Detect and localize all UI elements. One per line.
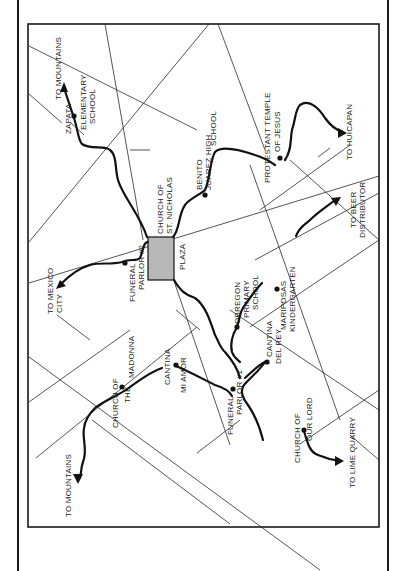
label-funeral-2: FUNERAL bbox=[128, 263, 137, 302]
label-church-st-nicholas-2: ST. NICHOLAS bbox=[165, 177, 174, 234]
label-parlor-2: PARLOR #2 bbox=[137, 244, 146, 290]
dot-benito-juarez bbox=[202, 192, 207, 197]
label-obregon: OBREGON bbox=[233, 282, 242, 324]
label-parlor-1: PARLOR #1 bbox=[235, 369, 244, 415]
label-church-our-lord-1: CHURCH OF bbox=[293, 413, 302, 463]
label-cantina-mi-amor-2: MI AMOR bbox=[179, 357, 188, 393]
label-church-st-nicholas-1: CHURCH OF bbox=[156, 184, 165, 234]
dot-funeral-parlor-2 bbox=[122, 260, 127, 265]
label-funeral-1: FUNERAL bbox=[226, 396, 235, 435]
label-of-jesus: OF JESUS bbox=[273, 111, 282, 152]
label-benito: BENITO bbox=[195, 159, 204, 190]
label-to-huicapan: TO HUICAPAN bbox=[345, 104, 354, 160]
label-church-madonna-1: CHURCH OF bbox=[111, 378, 120, 428]
label-distributor-text: DISTRIBUTOR bbox=[358, 182, 367, 238]
label-mariposas: MARIPOSAS bbox=[279, 281, 288, 330]
label-protestant-temple: PROTESTANT TEMPLE bbox=[263, 92, 272, 183]
label-kindergarten: KINDERGARTEN bbox=[288, 266, 297, 332]
label-school-obregon: SCHOOL bbox=[251, 275, 260, 310]
label-zapata: ZAPATA bbox=[64, 103, 73, 134]
dot-cantina-del-rey bbox=[264, 359, 269, 364]
label-church-our-lord-2: OUR LORD bbox=[305, 397, 314, 441]
dot-obregon bbox=[234, 324, 239, 329]
dot-protestant-temple bbox=[277, 155, 282, 160]
arrow-to-lime-quarry bbox=[335, 456, 344, 466]
label-school-zapata: SCHOOL bbox=[88, 89, 97, 124]
label-cantina-del-rey-1: CANTINA bbox=[265, 320, 274, 357]
label-cantina-del-rey-2: DEL REY bbox=[274, 328, 283, 364]
label-elementary: ELEMENTARY bbox=[79, 74, 88, 130]
dot-cantina-mi-amor bbox=[173, 362, 178, 367]
label-cantina-mi-amor-1: CANTINA bbox=[163, 348, 172, 385]
plaza-block bbox=[148, 237, 174, 280]
label-to-mountains-north: TO MOUNTAINS bbox=[54, 37, 63, 100]
label-to-beer: TO BEER bbox=[349, 192, 358, 228]
label-primary: PRIMARY bbox=[242, 280, 251, 318]
label-city: CITY bbox=[55, 294, 64, 313]
route-arrows bbox=[56, 82, 347, 484]
town-map: TO MOUNTAINS ZAPATA ELEMENTARY SCHOOL CH… bbox=[0, 0, 394, 571]
label-to-mountains-south: TO MOUNTAINS bbox=[64, 454, 73, 517]
label-plaza: PLAZA bbox=[178, 243, 187, 270]
label-to-lime-quarry: TO LIME QUARRY bbox=[348, 417, 357, 488]
label-church-madonna-2: THE bbox=[123, 386, 132, 403]
arrow-to-mountains-south bbox=[73, 474, 83, 484]
label-school-benito: SCHOOL bbox=[209, 111, 218, 146]
label-to-mexico: TO MEXICO bbox=[46, 267, 55, 314]
label-church-madonna-3: MADONNA bbox=[127, 335, 136, 378]
